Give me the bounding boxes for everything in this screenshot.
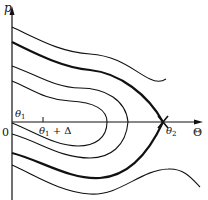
theta1-plus-delta-label: θ1 + Δ — [39, 126, 71, 138]
theta2-subscript: 2 — [172, 130, 176, 138]
lower-outer-trajectory — [12, 165, 200, 194]
x-axis-arrow-icon — [194, 120, 203, 125]
phase-diagram — [0, 0, 208, 200]
theta1-delta-suffix: + Δ — [50, 125, 72, 136]
theta2-label: θ2 — [166, 126, 177, 138]
middle-closed-orbit — [12, 66, 128, 158]
theta1-label: θ1 — [15, 109, 26, 121]
theta1-subscript: 1 — [21, 113, 25, 121]
y-axis-label: p — [4, 2, 12, 14]
origin-label: 0 — [2, 127, 9, 138]
x-axis-label: Θ — [193, 127, 202, 138]
